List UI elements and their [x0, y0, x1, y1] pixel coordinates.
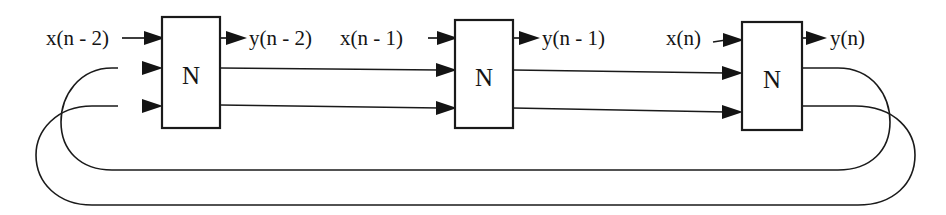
wire-input-1: [122, 31, 165, 45]
arrowhead-stage3-bottom-in: [722, 105, 743, 119]
arrowhead-stage3-middle-in: [722, 66, 743, 80]
wire-input-3: [713, 33, 744, 47]
signal-label-output-3: y(n): [830, 26, 865, 50]
arrowhead-stage2-bottom-in: [436, 101, 457, 115]
arrowhead-input-3: [723, 33, 744, 47]
signal-label-output-2: y(n - 1): [542, 26, 605, 50]
wire-stage2-to-stage3-bottom: [513, 105, 743, 119]
wire-output-3: [802, 31, 827, 45]
wire-stage2-to-stage3-middle: [513, 66, 743, 80]
signal-label-output-1: y(n - 2): [249, 26, 312, 50]
arrowhead-output-3: [806, 31, 827, 45]
block-3-label: N: [763, 66, 781, 93]
wire-output-1: [220, 31, 247, 45]
arrowheads-block1-feedback: [142, 61, 163, 113]
wire-input-2: [428, 31, 458, 45]
wire-stage1-to-stage2-bottom: [220, 101, 457, 115]
arrowhead-stage2-middle-in: [436, 63, 457, 77]
signal-label-input-1: x(n - 2): [46, 26, 109, 50]
diagram-canvas: N N: [0, 0, 946, 215]
wire-output-2: [513, 31, 540, 45]
arrowhead-output-1: [226, 31, 247, 45]
arrowhead-output-2: [519, 31, 540, 45]
arrowhead-feedback-outer-in: [142, 99, 163, 113]
arrowhead-feedback-inner-in: [142, 61, 163, 75]
block-diagram-svg: N N: [0, 0, 946, 215]
block-1-label: N: [182, 62, 200, 89]
signal-label-input-2: x(n - 1): [340, 26, 403, 50]
signal-label-input-3: x(n): [666, 26, 701, 50]
block-2-label: N: [475, 64, 493, 91]
wire-stage1-to-stage2-middle: [220, 63, 457, 77]
